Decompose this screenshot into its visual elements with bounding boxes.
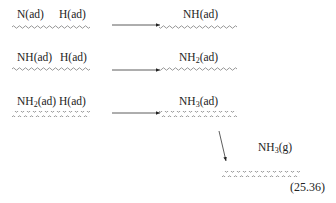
surface-wavy-line bbox=[159, 111, 237, 117]
surface-wavy-line bbox=[12, 24, 90, 30]
product-label: NH(ad) bbox=[183, 9, 218, 21]
reactant-label: NH(ad) bbox=[17, 52, 52, 64]
product-label: NH2(ad) bbox=[179, 52, 218, 64]
gas-product-label: NH3(g) bbox=[258, 142, 292, 154]
product-label: NH3(ad) bbox=[179, 96, 218, 108]
desorption-arrow bbox=[219, 131, 226, 161]
reactant-label: H(ad) bbox=[59, 96, 86, 108]
reactant-label: NH2(ad) bbox=[17, 96, 56, 108]
reactant-label: H(ad) bbox=[59, 9, 86, 21]
surface-wavy-line bbox=[12, 67, 90, 73]
surface-wavy-line bbox=[159, 24, 237, 30]
reactant-label: H(ad) bbox=[60, 52, 87, 64]
surface-wavy-line bbox=[222, 171, 300, 177]
surface-wavy-line bbox=[12, 111, 90, 117]
reactant-label: N(ad) bbox=[17, 9, 44, 21]
equation-number: (25.36) bbox=[290, 181, 325, 193]
surface-wavy-line bbox=[159, 67, 237, 73]
